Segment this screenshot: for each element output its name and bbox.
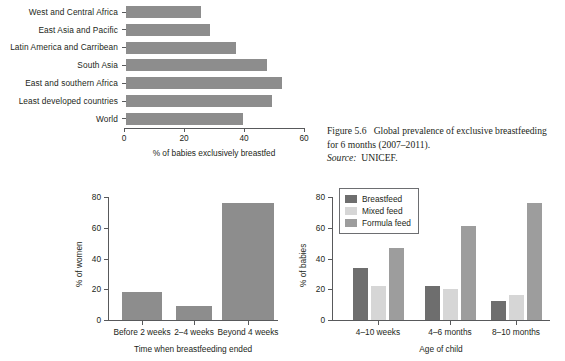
bar xyxy=(371,286,386,320)
bar-row: East Asia and Pacific xyxy=(0,21,318,39)
bar-row: World xyxy=(0,110,318,128)
figure-caption: Figure 5.6 Global prevalence of exclusiv… xyxy=(327,124,559,165)
bar xyxy=(425,286,440,320)
bar-row-label: Least developed countries xyxy=(0,97,122,105)
x-axis-tick xyxy=(516,321,517,325)
bar-row-label: South Asia xyxy=(0,61,122,69)
bar xyxy=(176,306,212,320)
y-axis-title: % of babies xyxy=(298,243,308,286)
legend-item: Mixed feed xyxy=(345,205,411,217)
bar xyxy=(222,203,274,320)
bar xyxy=(389,248,404,320)
legend-swatch xyxy=(345,195,357,203)
bar xyxy=(126,24,210,36)
x-axis-title: % of babies exclusively breastfed xyxy=(124,148,304,158)
y-axis-tick-label: 40 xyxy=(304,254,325,262)
y-axis-tick-label: 20 xyxy=(304,285,325,293)
x-axis-tick-label: 40 xyxy=(239,134,248,142)
x-axis-tick-label: 60 xyxy=(299,134,308,142)
x-axis-line xyxy=(124,128,304,129)
bar xyxy=(461,226,476,320)
bar xyxy=(527,203,542,320)
bar-row-label: Latin America and Carribean xyxy=(0,43,122,51)
caption-source-label: Source: xyxy=(327,152,356,163)
x-axis-category-label: Before 2 weeks xyxy=(113,328,170,336)
chart-legend: BreastfeedMixed feedFormula feed xyxy=(339,188,419,234)
bar-group xyxy=(108,197,278,320)
x-axis-tick xyxy=(304,128,305,132)
bar-row-label: East and southern Africa xyxy=(0,79,122,87)
bar xyxy=(491,301,506,320)
legend-label: Mixed feed xyxy=(362,207,403,215)
bar xyxy=(443,289,458,320)
x-axis-category-label: 4–10 weeks xyxy=(356,328,400,336)
legend-item: Breastfeed xyxy=(345,193,411,205)
chart-time-breastfeeding-ended: % of women 020406080 Before 2 weeks2–4 w… xyxy=(60,180,290,361)
y-axis-tick-label: 40 xyxy=(80,254,101,262)
y-axis-title: % of women xyxy=(74,241,84,287)
x-axis-tick xyxy=(184,128,185,132)
x-axis-tick xyxy=(194,321,195,325)
x-axis-tick xyxy=(142,321,143,325)
x-axis-tick xyxy=(124,128,125,132)
x-axis-tick-label: 0 xyxy=(122,134,127,142)
bar-row: East and southern Africa xyxy=(0,74,318,92)
chart-global-prevalence: West and Central AfricaEast Asia and Pac… xyxy=(0,0,318,165)
x-axis-category-label: 2–4 weeks xyxy=(174,328,214,336)
legend-label: Breastfeed xyxy=(362,195,402,203)
bar-row-label: World xyxy=(0,115,122,123)
bar xyxy=(122,292,162,320)
bar xyxy=(353,268,368,320)
x-axis-title: Time when breastfeeding ended xyxy=(108,344,278,354)
bar-row: South Asia xyxy=(0,56,318,74)
y-axis-tick-label: 0 xyxy=(304,316,325,324)
x-axis-line xyxy=(332,320,550,321)
x-axis-category-label: 4–6 months xyxy=(428,328,471,336)
caption-source-value: UNICEF. xyxy=(361,152,397,163)
legend-swatch xyxy=(345,207,357,215)
y-axis-tick-label: 60 xyxy=(80,224,101,232)
x-axis-tick-label: 20 xyxy=(179,134,188,142)
bar-row-label: West and Central Africa xyxy=(0,8,122,16)
x-axis-category-label: 8–10 months xyxy=(492,328,540,336)
caption-figure-label: Figure 5.6 xyxy=(327,125,366,136)
legend-swatch xyxy=(345,219,357,227)
bar xyxy=(126,113,243,125)
y-axis-tick-label: 20 xyxy=(80,285,101,293)
legend-label: Formula feed xyxy=(362,219,411,227)
x-axis-tick xyxy=(378,321,379,325)
x-axis-category-label: Beyond 4 weeks xyxy=(218,328,279,336)
bar-row: Least developed countries xyxy=(0,92,318,110)
y-axis-tick-label: 60 xyxy=(304,224,325,232)
y-axis-tick-label: 80 xyxy=(80,193,101,201)
chart-feeding-by-age: % of babies 020406080 4–10 weeks4–6 mont… xyxy=(290,180,565,361)
bar xyxy=(126,95,272,107)
legend-item: Formula feed xyxy=(345,217,411,229)
x-axis-title: Age of child xyxy=(332,344,550,354)
bar xyxy=(509,295,524,320)
x-axis-tick xyxy=(450,321,451,325)
x-axis-line xyxy=(108,320,278,321)
bar-row: Latin America and Carribean xyxy=(0,39,318,57)
bar-row: West and Central Africa xyxy=(0,3,318,21)
bar xyxy=(126,77,282,89)
bar xyxy=(126,59,267,71)
bar xyxy=(126,42,236,54)
x-axis-tick xyxy=(248,321,249,325)
y-axis-tick-label: 0 xyxy=(80,316,101,324)
bar-row-label: East Asia and Pacific xyxy=(0,26,122,34)
y-axis-tick-label: 80 xyxy=(304,193,325,201)
x-axis-tick xyxy=(244,128,245,132)
bar xyxy=(126,6,201,18)
